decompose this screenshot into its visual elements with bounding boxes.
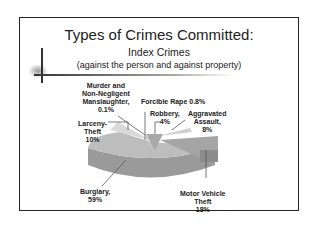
- label-assault: Aggravated Assault, 8%: [188, 110, 227, 134]
- label-murder: Murder and Non-Negligent Manslaughter, 0…: [82, 82, 130, 114]
- label-motor-vehicle: Motor Vehicle Theft 18%: [180, 190, 226, 214]
- label-rape: Forcible Rape 0.8%: [141, 98, 205, 106]
- label-larceny: Larceny- Theft 10%: [78, 120, 107, 144]
- label-robbery: Robbery, 4%: [150, 110, 180, 126]
- label-burglary: Burglary, 59%: [80, 188, 110, 204]
